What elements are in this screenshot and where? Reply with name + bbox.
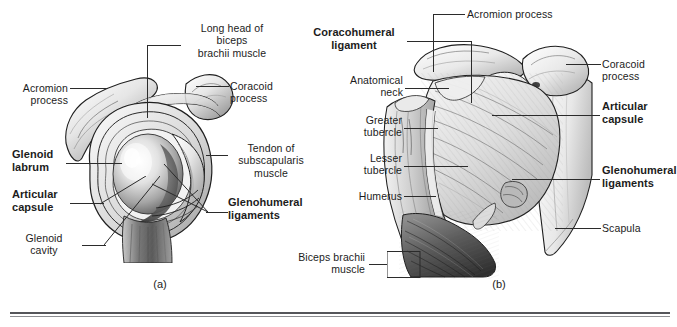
label-tendon-subscapularis: Tendon of subscapularis muscle: [228, 142, 314, 179]
leader-coracoid-b: [566, 64, 601, 65]
leader-glenoid-labrum: [66, 163, 122, 164]
leader-glenohumeral-lig-h: [206, 212, 228, 213]
divider-line-bottom: [10, 316, 670, 317]
label-humerus: Humerus: [322, 190, 402, 202]
label-long-head-biceps: Long head of biceps brachii muscle: [180, 22, 284, 59]
label-articular-capsule: Articular capsule: [12, 188, 92, 214]
leader-articular-capsule-b: [492, 115, 600, 116]
leader-glenohumeral-b: [512, 179, 600, 180]
label-glenoid-cavity: Glenoid cavity: [8, 232, 80, 257]
label-acromion-process: Acromion process: [0, 82, 68, 107]
label-coracohumeral-ligament: Coracohumeral ligament: [302, 26, 406, 52]
leader-coracoid-process: [196, 86, 229, 87]
bottom-divider: [10, 312, 670, 318]
label-acromion-process-b: Acromion process: [467, 8, 577, 20]
leader-humerus: [404, 196, 436, 197]
label-coracoid-process: Coracoid process: [230, 80, 300, 105]
leader-acromion-b-h: [433, 14, 465, 15]
leader-acromion-b-v: [433, 14, 434, 72]
label-glenohumeral-ligaments: Glenohumeral ligaments: [228, 196, 324, 222]
divider-line-top: [10, 312, 670, 314]
leader-anatomical-neck: [405, 88, 449, 89]
panel-b-anterior-view: Acromion process Coracohumeral ligament …: [337, 0, 677, 327]
label-articular-capsule-b: Articular capsule: [602, 100, 677, 126]
leader-biceps-brachii-h: [369, 264, 387, 265]
label-glenohumeral-ligaments-b: Glenohumeral ligaments: [602, 164, 677, 190]
leader-glenoid-cavity-diag: [104, 176, 160, 246]
panel-a-lateral-view: Long head of biceps brachii muscle Acrom…: [0, 0, 340, 327]
label-greater-tubercle: Greater tubercle: [322, 114, 402, 139]
leader-lesser-tubercle: [404, 166, 468, 167]
leader-articular-capsule-h: [70, 203, 104, 204]
leader-tendon-subscapularis: [206, 155, 228, 156]
anatomy-figure: Long head of biceps brachii muscle Acrom…: [0, 0, 677, 327]
label-scapula: Scapula: [602, 222, 672, 234]
leader-coracohumeral-v: [471, 41, 472, 103]
label-anatomical-neck: Anatomical neck: [315, 74, 403, 99]
caption-panel-b: (b): [479, 278, 519, 290]
leader-acromion-process: [70, 88, 108, 89]
leader-coracohumeral-h: [407, 41, 471, 42]
leader-glenoid-cavity-h: [82, 245, 106, 246]
leader-scapula: [555, 228, 601, 229]
caption-panel-a: (a): [140, 278, 180, 290]
leader-biceps-brachii-bracket: [387, 251, 421, 279]
leader-long-head-biceps-h: [147, 45, 181, 46]
leader-long-head-biceps-v: [147, 45, 148, 118]
label-coracoid-process-b: Coracoid process: [602, 58, 674, 83]
label-biceps-brachii-muscle: Biceps brachii muscle: [265, 251, 365, 276]
label-glenoid-labrum: Glenoid labrum: [12, 148, 92, 174]
leader-greater-tubercle: [404, 128, 438, 129]
label-lesser-tubercle: Lesser tubercle: [322, 152, 402, 177]
